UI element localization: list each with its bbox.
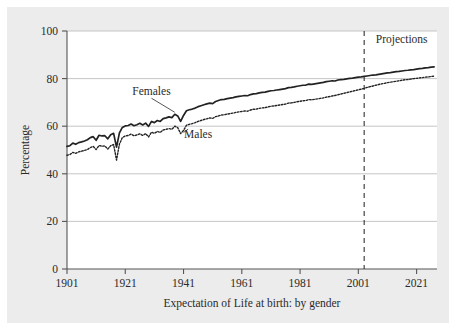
y-tick-label-0: 0 xyxy=(52,263,58,275)
y-tick-label-80: 80 xyxy=(47,73,59,85)
life-expectancy-line-chart: 020406080100 190119211941196119812001202… xyxy=(7,7,449,323)
x-tick-label-1901: 1901 xyxy=(56,277,79,289)
projections-annotation-label: Projections xyxy=(376,33,428,46)
females-series-label: Females xyxy=(132,85,171,97)
x-tick-label-1961: 1961 xyxy=(230,277,253,289)
chart-caption: Expectation of Life at birth: by gender xyxy=(164,297,341,310)
x-tick-label-2021: 2021 xyxy=(405,277,428,289)
y-axis: 020406080100 xyxy=(41,25,67,275)
y-tick-label-60: 60 xyxy=(47,120,59,132)
males-series-label: Males xyxy=(184,128,213,140)
plot-background xyxy=(67,31,437,269)
y-tick-label-100: 100 xyxy=(41,25,59,37)
x-tick-label-1921: 1921 xyxy=(114,277,137,289)
y-tick-label-40: 40 xyxy=(47,168,59,180)
x-tick-label-1981: 1981 xyxy=(289,277,312,289)
y-axis-title: Percentage xyxy=(19,125,32,175)
x-tick-label-1941: 1941 xyxy=(172,277,195,289)
y-tick-label-20: 20 xyxy=(47,215,59,227)
x-tick-label-2001: 2001 xyxy=(347,277,370,289)
chart-plot-wrapper: 020406080100 190119211941196119812001202… xyxy=(7,7,449,323)
x-axis: 1901192119411961198120012021 xyxy=(56,269,429,289)
chart-figure: 020406080100 190119211941196119812001202… xyxy=(7,7,449,323)
